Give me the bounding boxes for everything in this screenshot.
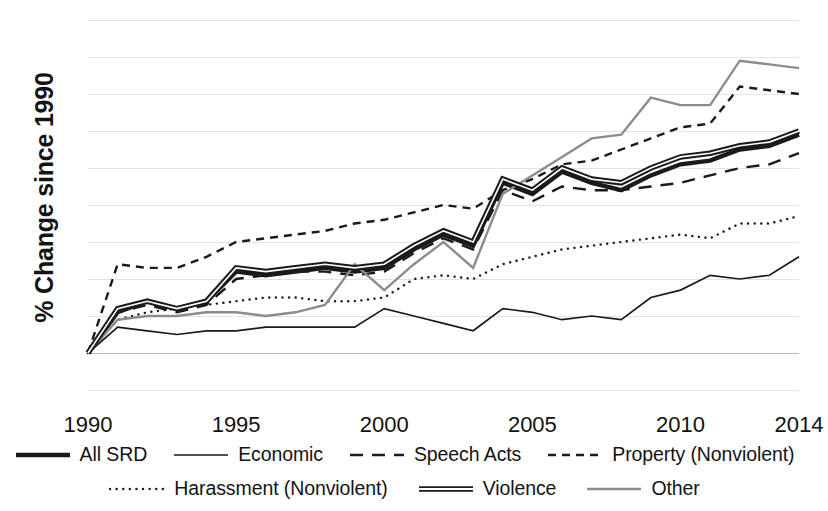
x-tick-label: 1995: [181, 412, 291, 438]
x-tick-label: 2014: [744, 412, 828, 438]
legend-item-all-srd[interactable]: All SRD: [15, 443, 148, 466]
legend-item-speech-acts[interactable]: Speech Acts: [349, 443, 521, 466]
x-tick-label: 1990: [33, 412, 143, 438]
x-tick-label: 2010: [626, 412, 736, 438]
x-tick-label: 2005: [477, 412, 587, 438]
legend-swatch: [15, 448, 71, 462]
series-lines: [88, 20, 799, 390]
legend-swatch: [418, 482, 474, 496]
legend: All SRDEconomicSpeech ActsProperty (Nonv…: [0, 443, 809, 500]
legend-label: Violence: [483, 477, 557, 500]
legend-item-property-nonviolent[interactable]: Property (Nonviolent): [547, 443, 794, 466]
legend-label: Property (Nonviolent): [612, 443, 794, 466]
legend-label: Economic: [238, 443, 323, 466]
legend-swatch: [349, 448, 405, 462]
legend-swatch: [547, 448, 603, 462]
legend-item-economic[interactable]: Economic: [173, 443, 323, 466]
series-line-all-srd: [88, 135, 799, 353]
legend-label: Other: [651, 477, 699, 500]
legend-row-2: Harassment (Nonviolent)ViolenceOther: [0, 477, 809, 500]
legend-swatch: [586, 482, 642, 496]
y-axis-title: % Change since 1990: [30, 58, 59, 338]
legend-row-1: All SRDEconomicSpeech ActsProperty (Nonv…: [0, 443, 809, 466]
legend-label: All SRD: [80, 443, 148, 466]
legend-label: Speech Acts: [414, 443, 521, 466]
legend-label: Harassment (Nonviolent): [174, 477, 387, 500]
legend-item-other[interactable]: Other: [586, 477, 699, 500]
legend-item-violence[interactable]: Violence: [418, 477, 557, 500]
x-tick-label: 2000: [329, 412, 439, 438]
plot-area: -100102030405060708090 19901995200020052…: [88, 20, 799, 390]
series-line-other: [88, 61, 799, 353]
gridline--10: [88, 390, 799, 391]
legend-swatch: [173, 448, 229, 462]
legend-swatch: [109, 482, 165, 496]
legend-item-harassment-nonviolent[interactable]: Harassment (Nonviolent): [109, 477, 387, 500]
